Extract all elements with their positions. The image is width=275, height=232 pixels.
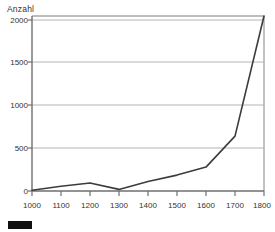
data-series-line (32, 16, 264, 190)
x-tick-label: 1200 (81, 201, 99, 210)
y-tick-label: 500 (15, 144, 28, 153)
y-tick-label: 2000 (10, 16, 28, 25)
legend-color-swatch (8, 221, 32, 229)
gridlines (32, 20, 264, 148)
plot-frame (32, 16, 264, 191)
y-tick-label: 1000 (10, 101, 28, 110)
x-tick-label: 1500 (168, 201, 186, 210)
x-tick-marks (32, 191, 264, 196)
x-tick-label: 1700 (226, 201, 244, 210)
x-tick-label: 1600 (197, 201, 215, 210)
chart-plot-area (0, 0, 275, 232)
x-tick-label: 1800 (253, 201, 271, 210)
y-tick-label: 1500 (10, 58, 28, 67)
x-tick-label: 1000 (23, 201, 41, 210)
y-axis-label: Anzahl (7, 4, 34, 14)
chart-container: Anzahl 2000 1500 1000 500 0 (0, 0, 275, 232)
y-tick-label: 0 (24, 187, 28, 196)
x-tick-label: 1400 (139, 201, 157, 210)
x-tick-label: 1100 (52, 201, 69, 210)
x-tick-label: 1300 (110, 201, 128, 210)
